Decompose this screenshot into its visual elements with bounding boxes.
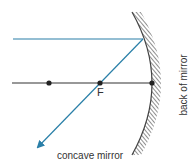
ray-diagram: [0, 0, 194, 168]
concave-mirror-label: concave mirror: [57, 150, 123, 161]
focal-point-dot: [97, 80, 102, 85]
pole-dot: [149, 80, 154, 85]
back-of-mirror-label: back of mirror: [178, 54, 189, 115]
focal-point-label: F: [97, 86, 104, 98]
center-of-curvature-dot: [46, 80, 51, 85]
reflected-ray: [38, 39, 143, 147]
